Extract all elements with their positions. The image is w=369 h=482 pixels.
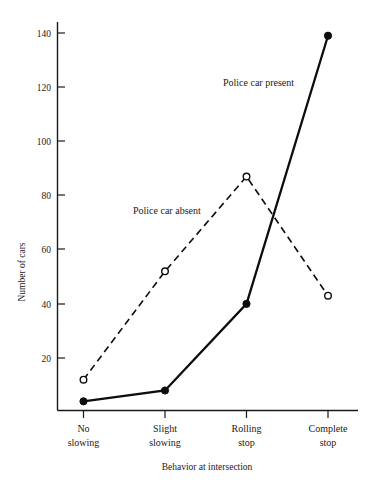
x-tick-label-line1: Complete [309,423,348,434]
x-tick-label-complete-stop: Complete stop [309,423,348,448]
annotation-police-car-absent: Police car absent [133,205,201,216]
x-tick-label-line1: Rolling [231,423,261,434]
line-chart-canvas: 140 120 100 80 60 40 20 Number of cars N… [0,0,369,482]
y-tick-label-40: 40 [42,300,52,310]
series-markers-police-car-absent [80,173,331,383]
y-tick-label-20: 20 [42,354,52,364]
y-tick-label-60: 60 [42,245,52,255]
x-tick-label-line1: Slight [153,423,177,434]
y-tick-label-100: 100 [37,137,52,147]
x-tick-label-line2: slowing [68,437,100,448]
data-point-marker [80,376,87,383]
annotation-police-car-present: Police car present [223,77,294,88]
data-point-marker [243,300,250,307]
x-axis-ticks [84,411,329,419]
chart-figure: 140 120 100 80 60 40 20 Number of cars N… [0,0,369,482]
x-tick-label-line1: No [77,423,89,434]
series-line-police-car-absent [84,177,329,380]
x-tick-label-line2: slowing [149,437,181,448]
x-tick-label-slight-slowing: Slight slowing [149,423,181,448]
data-point-marker [161,387,168,394]
y-tick-label-140: 140 [37,29,52,39]
x-tick-label-line2: stop [320,437,337,448]
y-tick-label-120: 120 [37,83,52,93]
x-tick-label-no-slowing: No slowing [68,423,100,448]
x-axis-title: Behavior at intersection [162,462,253,472]
y-axis-ticks [58,33,66,358]
series-line-police-car-present [84,36,329,402]
data-point-marker [324,32,331,39]
y-axis-title: Number of cars [17,242,27,301]
x-tick-label-line2: stop [238,437,255,448]
data-point-marker [80,398,87,405]
data-point-marker [325,292,332,299]
series-markers-police-car-present [80,32,332,405]
y-tick-label-80: 80 [42,191,52,201]
data-point-marker [162,268,169,275]
data-point-marker [243,173,250,180]
x-tick-label-rolling-stop: Rolling stop [231,423,261,448]
